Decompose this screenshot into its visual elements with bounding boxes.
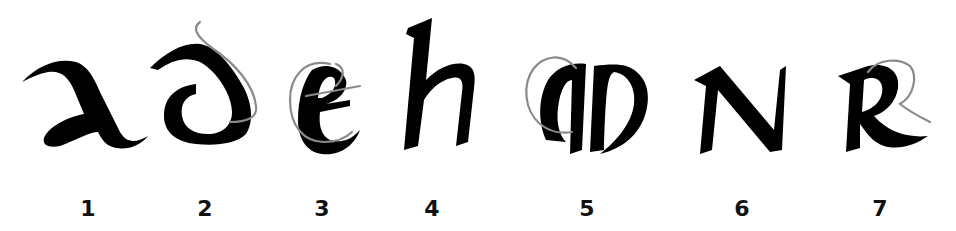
label-number-5: 5	[579, 196, 594, 221]
calligraphy-figure	[0, 0, 956, 231]
letter-2-d	[150, 22, 256, 145]
label-number-1: 1	[80, 196, 95, 221]
letter-7-r	[838, 61, 930, 152]
label-number-2: 2	[197, 196, 212, 221]
label-number-4: 4	[424, 196, 439, 221]
letter-3-e	[290, 63, 360, 154]
letter-5-m	[526, 57, 648, 154]
label-number-7: 7	[872, 196, 887, 221]
letter-4-h	[404, 18, 475, 150]
letter-6-n	[694, 66, 786, 154]
label-number-3: 3	[314, 196, 329, 221]
letter-1-a	[22, 61, 148, 149]
label-number-6: 6	[734, 196, 749, 221]
